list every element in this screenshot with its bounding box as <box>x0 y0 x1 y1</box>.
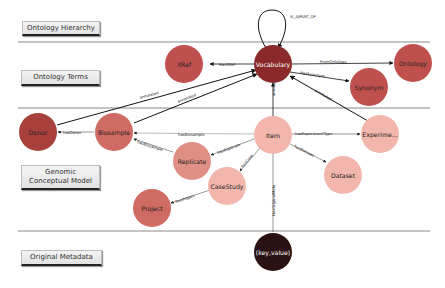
node-item[interactable]: Item <box>254 116 292 154</box>
node-biosample[interactable]: Biosample <box>95 113 133 151</box>
svg-text:Ontology: Ontology <box>399 60 427 68</box>
svg-text:Item: Item <box>266 132 280 139</box>
edge-label-annotated-donor: annotated <box>139 90 160 100</box>
svg-text:Project: Project <box>141 205 163 213</box>
edge-label-has-case: hasCase <box>240 153 255 169</box>
node-xref[interactable]: XRef <box>165 45 203 83</box>
node-keyvalue[interactable]: (key,value) <box>254 233 292 271</box>
node-dataset[interactable]: Dataset <box>324 156 362 194</box>
layer-label-original-metadata: Original Metadata <box>21 250 102 266</box>
node-donor[interactable]: Donor <box>19 113 57 151</box>
node-casestudy[interactable]: CaseStudy <box>208 167 246 205</box>
svg-text:XRef: XRef <box>177 61 192 68</box>
node-project[interactable]: Project <box>133 189 171 227</box>
edge-label-has-experiment-type: hasExperimentType <box>295 131 333 136</box>
svg-text:Replicate: Replicate <box>178 158 207 166</box>
edge-label-has-project: hasProject <box>175 193 196 204</box>
edge-label-has-original-meta: HasOriginalMeta <box>271 185 276 216</box>
svg-text:Dataset: Dataset <box>331 172 356 179</box>
layer-label-ontology-hierarchy: Ontology Hierarchy <box>22 21 100 36</box>
svg-text:Donor: Donor <box>29 129 48 136</box>
svg-text:(key,value): (key,value) <box>256 249 291 257</box>
edge-label-from-ontology: FromOntology <box>320 59 347 64</box>
edge-label-has-donor: hasDonor <box>63 130 82 135</box>
edge-label-has-biosample-item: hasBiosample <box>178 132 205 137</box>
node-replicate[interactable]: Replicate <box>173 142 211 180</box>
svg-text:CaseStudy: CaseStudy <box>210 183 243 191</box>
svg-text:Vocabulary: Vocabulary <box>256 61 291 69</box>
layer-label-genomic-conceptual-model: Genomic Conceptual Model <box>21 165 100 190</box>
edge-label-has-synonym: HasSynonym <box>300 70 326 78</box>
node-experiment[interactable]: Experime... <box>361 115 399 153</box>
edge-label-is-a-part-of: IS_A|PART_OF <box>290 14 316 19</box>
node-vocabulary[interactable]: Vocabulary <box>254 45 292 83</box>
node-ontology[interactable]: Ontology <box>394 44 432 82</box>
edge-label-has-xref: HasXRef <box>219 62 236 67</box>
edge-label-has-dataset: hasDataset <box>294 143 316 158</box>
svg-text:Biosample: Biosample <box>98 129 130 137</box>
layer-label-ontology-terms: Ontology Terms <box>21 70 100 86</box>
edge-label-annotated-experiment: annotated <box>314 88 334 102</box>
edge-label-has-biosample-replicate: hasBiosample <box>137 139 164 152</box>
edge-label-has-replicate: hasReplicate <box>217 142 242 155</box>
svg-text:Experime...: Experime... <box>362 131 397 139</box>
svg-text:Synonym: Synonym <box>355 84 384 92</box>
node-synonym[interactable]: Synonym <box>350 68 388 106</box>
ontology-diagram: IS_A|PART_OF HasXRef FromOntology HasSyn… <box>0 0 445 288</box>
